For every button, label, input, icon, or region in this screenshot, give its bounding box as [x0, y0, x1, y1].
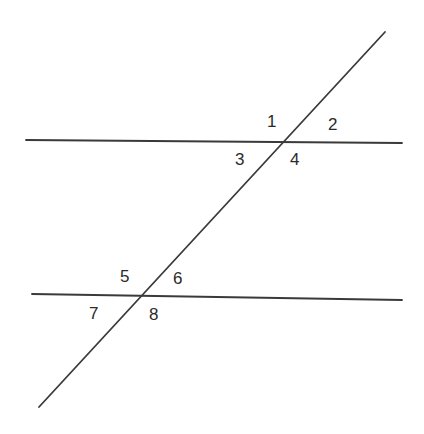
angle-label-4: 4: [290, 150, 299, 169]
angle-label-6: 6: [173, 269, 182, 288]
upper-parallel-line: [26, 140, 402, 143]
diagram-canvas: 1 2 3 4 5 6 7 8: [0, 0, 424, 434]
angle-label-8: 8: [149, 305, 158, 324]
angle-label-7: 7: [89, 304, 98, 323]
transversal-line: [39, 32, 385, 407]
angle-label-5: 5: [120, 267, 129, 286]
angle-label-3: 3: [235, 150, 244, 169]
angle-label-1: 1: [267, 112, 276, 131]
angle-label-2: 2: [328, 115, 337, 134]
lower-parallel-line: [32, 294, 402, 300]
diagram-svg: 1 2 3 4 5 6 7 8: [0, 0, 424, 434]
